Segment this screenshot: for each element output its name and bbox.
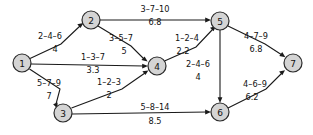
node-1-label: 1: [19, 59, 25, 69]
edge-label-2-to-4-fuzzy: 3–5–7: [109, 33, 133, 43]
graph-canvas: 2–4–6 4 1–3–7 3.3 5–7–9 7 3–7–10 6.8 3–5…: [0, 0, 313, 135]
edge-label-5-to-7-value: 6.8: [249, 44, 262, 54]
edge-label-5-to-6-fuzzy: 2–4–6: [186, 59, 210, 69]
edge-label-3-to-4-value: 2: [106, 90, 111, 100]
edge-label-2-to-5-fuzzy: 3–7–10: [140, 4, 169, 14]
node-1[interactable]: 1: [13, 54, 31, 72]
node-2[interactable]: 2: [82, 11, 100, 29]
edge-1-to-3: [30, 69, 61, 109]
node-4-label: 4: [154, 62, 160, 72]
node-2-label: 2: [88, 16, 94, 26]
edge-6-to-7: [228, 70, 285, 108]
edge-label-2-to-5-value: 6.8: [148, 17, 161, 27]
node-3[interactable]: 3: [54, 104, 72, 122]
edge-3-to-6-arrowhead: [205, 110, 211, 115]
edge-label-5-to-7-fuzzy: 4–7–9: [244, 31, 268, 41]
edge-label-3-to-4-fuzzy: 1–2–3: [97, 77, 121, 87]
node-3-label: 3: [60, 109, 66, 119]
edge-label-3-to-6-fuzzy: 5–8–14: [140, 102, 169, 112]
edge-label-5-to-6-value: 4: [195, 72, 200, 82]
edge-label-1-to-3-value: 7: [46, 91, 51, 101]
edge-label-1-to-2-fuzzy: 2–4–6: [38, 31, 62, 41]
network-diagram: 2–4–6 4 1–3–7 3.3 5–7–9 7 3–7–10 6.8 3–5…: [0, 0, 313, 135]
node-5[interactable]: 5: [211, 12, 229, 30]
edge-5-to-6: [218, 30, 223, 103]
edge-label-4-to-5-value: 2.2: [176, 46, 189, 56]
node-6-label: 6: [217, 108, 223, 118]
node-7[interactable]: 7: [284, 54, 302, 72]
edge-label-4-to-5-fuzzy: 1–2–4: [175, 33, 199, 43]
edge-2-to-4: [98, 26, 148, 62]
edge-4-to-5: [165, 26, 216, 61]
edge-3-to-6-line: [72, 112, 207, 114]
edge-label-1-to-4-value: 3.3: [86, 65, 99, 75]
node-5-label: 5: [217, 17, 223, 27]
edge-5-to-7-arrowhead: [279, 52, 285, 57]
edge-label-2-to-4-value: 5: [121, 46, 126, 56]
edge-label-1-to-2-value: 4: [52, 44, 57, 54]
edge-label-6-to-7-value: 6.2: [245, 92, 258, 102]
edge-label-6-to-7-fuzzy: 4–6–9: [243, 79, 267, 89]
edge-2-to-5-arrowhead: [205, 18, 211, 23]
edge-label-1-to-3-fuzzy: 5–7–9: [37, 78, 61, 88]
edge-label-1-to-4-fuzzy: 1–3–7: [81, 52, 105, 62]
node-4[interactable]: 4: [148, 57, 166, 75]
edge-label-3-to-6-value: 8.5: [148, 116, 161, 126]
edge-5-to-6-arrowhead: [218, 97, 223, 103]
node-6[interactable]: 6: [211, 103, 229, 121]
edge-1-to-4-arrowhead: [142, 64, 148, 69]
node-7-label: 7: [290, 59, 296, 69]
